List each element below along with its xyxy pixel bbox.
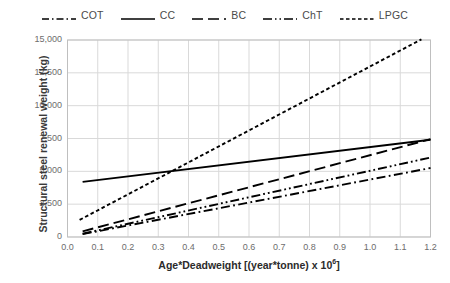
series-line-cc (83, 140, 431, 182)
series-line-bc (83, 139, 431, 231)
x-tick-label: 0.3 (142, 242, 174, 252)
plot-area (0, 0, 450, 283)
x-tick-label: 0.2 (112, 242, 144, 252)
x-tick-label: 0.0 (52, 242, 84, 252)
x-tick-label: 0.4 (173, 242, 205, 252)
x-axis-title-tail: ] (336, 259, 340, 271)
x-tick-label: 1.1 (384, 242, 416, 252)
x-axis-title: Age*Deadweight [(year*tonne) x 106] (67, 258, 431, 271)
chart-container: COT CC BC ChT LPGC (0, 0, 450, 283)
series-lines (80, 39, 431, 234)
x-axis-title-main: Age*Deadweight [(year*tonne) x 10 (158, 259, 332, 271)
x-tick-label: 0.9 (324, 242, 356, 252)
y-axis-title: Structural steel renewal weight (kg) (37, 39, 49, 249)
x-tick-label: 0.6 (233, 242, 265, 252)
x-tick-label: 0.7 (263, 242, 295, 252)
series-line-cot (83, 168, 431, 234)
x-tick-label: 0.1 (82, 242, 114, 252)
x-tick-label: 1.0 (354, 242, 386, 252)
x-tick-label: 1.2 (415, 242, 447, 252)
x-tick-label: 0.5 (203, 242, 235, 252)
grid-lines (68, 40, 431, 237)
series-line-cht (83, 158, 431, 234)
x-tick-label: 0.8 (294, 242, 326, 252)
